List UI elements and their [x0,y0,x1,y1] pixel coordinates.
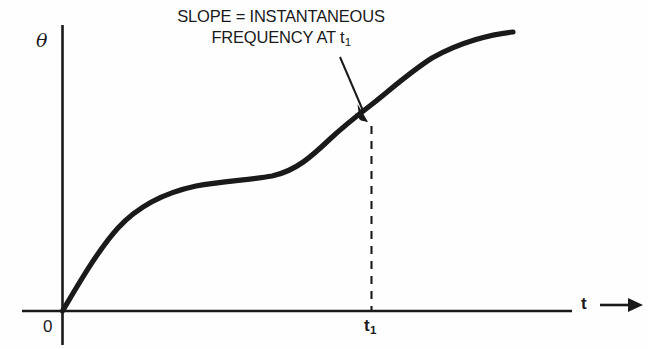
phase-curve [63,32,514,311]
figure-canvas [0,0,648,349]
t1-tick-label-text: t [364,316,369,335]
x-axis-arrow-head [628,298,643,312]
y-axis-label: θ [36,29,47,51]
t1-tick-label-subscript: 1 [370,324,376,336]
origin-label: 0 [43,317,52,337]
caption-line-2-text: FREQUENCY AT t [211,28,344,46]
caption-line-2-subscript: 1 [345,36,351,48]
caption-line-2: FREQUENCY AT t1 [160,27,402,50]
x-axis-label: t [581,294,586,314]
slope-annotation-caption: SLOPE = INSTANTANEOUS FREQUENCY AT t1 [160,6,402,50]
phase-vs-time-figure: SLOPE = INSTANTANEOUS FREQUENCY AT t1 θ … [0,0,648,349]
t1-tick-label: t1 [364,316,376,336]
caption-line-1: SLOPE = INSTANTANEOUS [160,6,402,27]
callout-arrow-shaft [340,57,364,113]
